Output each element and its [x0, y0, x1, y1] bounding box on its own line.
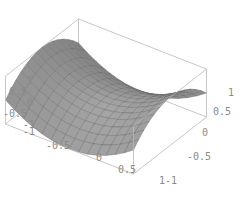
surface-plot: 10.50-0.5-1-1 -0.500.51 -1-0.500.51 [0, 0, 244, 197]
x-tick-label: 0.5 [118, 164, 136, 175]
x-tick-label: -0.5 [46, 140, 70, 151]
z-tick-label: -0.5 [3, 108, 27, 119]
y-tick-label: -0.5 [187, 151, 211, 162]
y-tick-label: 1 [228, 87, 234, 98]
y-tick-label: 0.5 [213, 106, 231, 117]
box-edge [79, 19, 207, 69]
z-tick-label: 1 [27, 75, 33, 86]
saddle-surface [6, 39, 207, 155]
y-tick-label: -1 [165, 175, 177, 186]
y-tick-label: 0 [202, 127, 208, 138]
y-axis-ticks: -1-0.500.51 [165, 87, 234, 186]
z-tick-label: -1 [23, 126, 35, 137]
z-tick-label: 0 [27, 97, 33, 108]
x-tick-label: 0 [96, 152, 102, 163]
z-tick-label: 0.5 [9, 86, 27, 97]
